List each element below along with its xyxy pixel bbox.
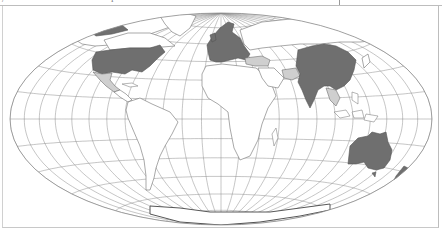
country-mexico [93, 72, 120, 92]
region-middle-east [245, 56, 270, 66]
landmass-japan [362, 54, 370, 68]
world-map[interactable] [0, 0, 442, 230]
landmass-caribbean [122, 83, 138, 87]
country-usa [92, 45, 165, 74]
country-australia [348, 132, 392, 170]
landmass-antarctica [150, 204, 330, 225]
region-iran-pakistan [282, 68, 300, 80]
landmass-south-america [126, 98, 178, 190]
region-southeast-asia [326, 88, 340, 106]
landmass-indonesia [334, 110, 378, 122]
landmass-philippines [352, 92, 358, 104]
